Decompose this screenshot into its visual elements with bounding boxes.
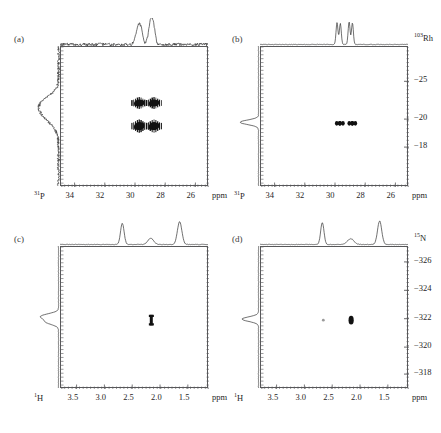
x-tick-label: 30 [126,190,135,200]
cross-peak [146,97,161,109]
x-tick-label: 30 [326,190,335,200]
y-axis-nucleus-label: 15N [414,232,426,243]
y-tick-label: −20 [414,112,427,122]
plot-area-c [60,246,208,388]
panel-d: (d)3.53.02.52.01.51Hppm15N−326−324−322−3… [220,211,441,433]
cross-peak [349,316,354,325]
spectrum-canvas-b [261,47,409,187]
x-tick-label: 32 [96,190,105,200]
x-tick-label: 1.5 [179,392,190,402]
y-tick-label: −326 [414,255,432,265]
y-nucleus-symbol: N [420,233,426,243]
x-tick-label: 28 [356,190,365,200]
left-projection-trace-c [36,246,60,388]
x-tick-label: 2.5 [123,392,134,402]
top-projection-trace-a [60,18,208,46]
panel-label-b: (b) [232,34,243,44]
cross-peak [131,97,147,109]
plot-area-d [260,246,408,388]
x-axis-unit-label: ppm [412,190,427,200]
x-tick-label: 2.5 [323,392,334,402]
x-tick-label: 34 [66,190,75,200]
top-projection-trace-d [260,218,408,246]
x-axis-nucleus-label: 1H [34,392,43,403]
cross-peak [338,121,345,126]
x-axis-unit-label: ppm [412,392,427,402]
y-axis-nucleus-label: 103Rh [414,32,433,43]
x-axis-nucleus-label: 31P [34,190,45,201]
panel-c: (c)3.53.02.52.01.51Hppm [0,211,221,433]
y-tick-label: −320 [414,340,432,350]
y-tick-label: −322 [414,312,432,322]
cross-peak [149,315,154,326]
x-nucleus-symbol: H [37,393,43,403]
left-projection-trace-a [36,46,60,186]
panel-a: (a)343230282631Pppm [0,0,221,216]
x-tick-label: 2.0 [151,392,162,402]
x-tick-label: 26 [186,190,195,200]
nmr-figure: (a)343230282631Pppm(b)343230282631Pppm10… [0,0,441,433]
x-tick-label: 32 [296,190,305,200]
cross-peak [322,319,325,322]
x-tick-label: 3.5 [68,392,79,402]
x-axis-nucleus-label: 31P [234,190,245,201]
x-tick-label: 2.0 [351,392,362,402]
cross-peak [131,119,147,132]
x-tick-label: 34 [266,190,275,200]
y-tick-label: −18 [414,140,427,150]
y-nucleus-mass-number: 103 [414,32,423,38]
y-nucleus-symbol: Rh [423,33,433,43]
left-projection-trace-d [236,246,260,388]
panel-b: (b)343230282631Pppm103Rh−25−20−18 [220,0,441,216]
y-tick-label: −324 [414,283,432,293]
spectrum-canvas-a [61,47,209,187]
x-nucleus-symbol: P [40,191,45,201]
x-tick-label: 26 [386,190,395,200]
left-projection-trace-b [236,46,260,186]
x-tick-label: 3.0 [295,392,306,402]
spectrum-canvas-c [61,247,209,389]
top-projection-trace-c [60,218,208,246]
x-nucleus-symbol: H [237,393,243,403]
y-tick-label: −318 [414,367,432,377]
panel-label-a: (a) [14,34,24,44]
panel-label-c: (c) [14,234,24,244]
x-tick-label: 3.0 [95,392,106,402]
x-axis-nucleus-label: 1H [234,392,243,403]
plot-area-b [260,46,408,186]
panel-label-d: (d) [232,234,243,244]
x-nucleus-symbol: P [240,191,245,201]
x-tick-label: 28 [156,190,165,200]
cross-peak [146,119,162,132]
x-tick-label: 3.5 [268,392,279,402]
y-tick-label: −25 [414,74,427,84]
spectrum-canvas-d [261,247,409,389]
top-projection-trace-b [260,18,408,46]
x-tick-label: 1.5 [379,392,390,402]
plot-area-a [60,46,208,186]
